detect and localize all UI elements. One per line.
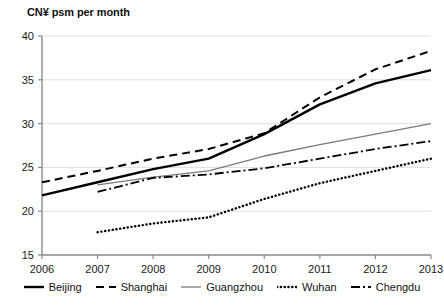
legend-label: Chengdu bbox=[376, 281, 421, 293]
x-tick-label: 2011 bbox=[308, 263, 332, 275]
legend-item-shanghai[interactable]: Shanghai bbox=[96, 281, 168, 293]
y-tick-label: 35 bbox=[22, 74, 34, 86]
legend-swatch-wuhan-icon bbox=[277, 282, 297, 292]
x-tick-label: 2007 bbox=[85, 263, 109, 275]
y-tick-label: 15 bbox=[22, 249, 34, 261]
legend-swatch-chengdu-icon bbox=[351, 282, 371, 292]
x-tick-label: 2013 bbox=[419, 263, 443, 275]
series-line-beijing bbox=[42, 70, 431, 195]
legend-swatch-shanghai-icon bbox=[96, 282, 116, 292]
legend-item-beijing[interactable]: Beijing bbox=[24, 281, 82, 293]
line-chart-plot: 1520253035402006200720082009201020112012… bbox=[0, 0, 444, 305]
legend-label: Beijing bbox=[49, 281, 82, 293]
legend-item-chengdu[interactable]: Chengdu bbox=[351, 281, 421, 293]
y-tick-label: 20 bbox=[22, 205, 34, 217]
series-line-shanghai bbox=[42, 51, 431, 182]
chart-container: CN¥ psm per month 1520253035402006200720… bbox=[0, 0, 444, 305]
legend-item-wuhan[interactable]: Wuhan bbox=[277, 281, 337, 293]
legend-label: Guangzhou bbox=[206, 281, 263, 293]
y-tick-label: 30 bbox=[22, 118, 34, 130]
x-tick-label: 2009 bbox=[196, 263, 220, 275]
legend-swatch-beijing-icon bbox=[24, 282, 44, 292]
x-tick-label: 2010 bbox=[252, 263, 276, 275]
legend-label: Wuhan bbox=[302, 281, 337, 293]
x-tick-label: 2006 bbox=[30, 263, 54, 275]
x-tick-label: 2008 bbox=[141, 263, 165, 275]
legend-swatch-guangzhou-icon bbox=[181, 282, 201, 292]
legend-label: Shanghai bbox=[121, 281, 168, 293]
legend-item-guangzhou[interactable]: Guangzhou bbox=[181, 281, 263, 293]
x-tick-label: 2012 bbox=[363, 263, 387, 275]
y-tick-label: 40 bbox=[22, 30, 34, 42]
series-line-chengdu bbox=[98, 141, 431, 192]
chart-legend: BeijingShanghaiGuangzhouWuhanChengdu bbox=[0, 281, 444, 293]
y-tick-label: 25 bbox=[22, 161, 34, 173]
